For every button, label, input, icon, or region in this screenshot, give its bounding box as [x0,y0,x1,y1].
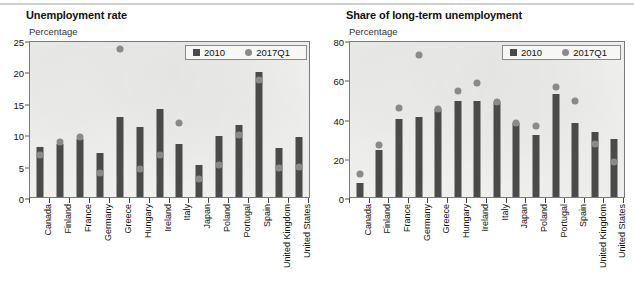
x-axis-label-united-kingdom: United Kingdom [282,204,292,268]
y-axis-tick-label: 80 [333,37,344,48]
y-axis-right: 020406080 [320,41,349,199]
x-axis-label-japan: Japan [519,204,529,229]
x-axis-label-spain: Spain [262,204,272,227]
dot-ireland [156,151,163,158]
x-axis-tick-mark [623,198,624,203]
bar-poland [532,135,539,197]
legend-item-2010-left: 2010 [193,47,225,58]
legend-label-2010-right: 2010 [521,47,542,58]
dot-poland [532,123,539,130]
y-axis-tick-label: 10 [13,131,24,142]
y-axis-tick-label: 15 [13,99,24,110]
x-axis-label-france: France [83,204,93,232]
x-axis-label-italy: Italy [500,204,510,221]
x-axis-tick-mark [188,198,189,203]
dot-germany [415,51,422,58]
dot-france [76,133,83,140]
bar-united-states [611,139,618,197]
plot-area-left [29,41,310,198]
dot-italy [176,119,183,126]
dot-united-states [611,158,618,165]
circle-marker-icon [245,49,252,56]
figure-container: Unemployment rate Percentage 0510152025 … [0,0,634,293]
x-axis-tick-mark [486,198,487,203]
dot-japan [513,120,520,127]
dot-greece [116,46,123,53]
y-axis-tick-label: 0 [339,194,344,205]
dot-united-kingdom [591,141,598,148]
y-axis-tick-label: 25 [13,37,24,48]
x-axis-label-finland: Finland [63,204,73,234]
dot-canada [356,171,363,178]
legend-label-2017q1-right: 2017Q1 [573,47,607,58]
dot-portugal [552,84,559,91]
x-axis-label-spain: Spain [578,204,588,227]
x-axis-label-hungary: Hungary [143,204,153,238]
x-axis-tick-mark [208,198,209,203]
dot-spain [256,77,263,84]
x-axis-tick-mark [564,198,565,203]
x-axis-label-united-states: United States [617,204,627,258]
x-axis-tick-mark [308,198,309,203]
x-axis-label-france: France [402,204,412,232]
legend-left: 2010 2017Q1 [185,45,307,60]
x-axis-label-germany: Germany [103,204,113,241]
x-axis-label-hungary: Hungary [461,204,471,238]
bar-spain [572,123,579,197]
bar-greece [116,117,123,197]
x-axis-tick-mark [29,198,30,203]
x-axis-tick-mark [349,198,350,203]
legend-item-2010-right: 2010 [510,47,542,58]
x-axis-label-poland: Poland [222,204,232,232]
x-axis-label-portugal: Portugal [559,204,569,238]
chart-panel-unemployment-rate: Unemployment rate Percentage 0510152025 … [0,0,320,293]
x-axis-tick-mark [388,198,389,203]
bar-finland [376,150,383,197]
x-axis-tick-mark [268,198,269,203]
dot-spain [572,97,579,104]
x-axis-tick-mark [369,198,370,203]
x-axis-label-greece: Greece [441,204,451,234]
dot-poland [216,161,223,168]
x-axis-tick-mark [89,198,90,203]
x-axis-label-united-states: United States [302,204,312,258]
dot-finland [376,142,383,149]
x-axis-tick-mark [169,198,170,203]
dot-portugal [236,131,243,138]
chart-title-right: Share of long-term unemployment [346,9,522,21]
x-axis-label-japan: Japan [202,204,212,229]
x-axis-tick-mark [149,198,150,203]
x-axis-label-italy: Italy [182,204,192,221]
bar-italy [493,102,500,197]
series-layer-left [30,42,309,197]
dot-japan [196,175,203,182]
dot-finland [56,138,63,145]
x-axis-tick-mark [447,198,448,203]
dot-greece [435,106,442,113]
bar-spain [256,72,263,197]
y-axis-unit-right: Percentage [349,26,398,37]
x-axis-label-ireland: Ireland [163,204,173,232]
dot-france [395,104,402,111]
bar-france [395,119,402,198]
x-axis-labels-left: CanadaFinlandFranceGermanyGreeceHungaryI… [29,204,310,290]
chart-title-left: Unemployment rate [26,9,127,21]
y-axis-tick-label: 5 [19,162,24,173]
legend-right: 2010 2017Q1 [502,45,621,60]
y-axis-tick-label: 40 [333,115,344,126]
bar-finland [56,144,63,197]
dot-hungary [454,88,461,95]
y-axis-tick-label: 20 [333,154,344,165]
bar-portugal [552,94,559,197]
x-axis-tick-mark [525,198,526,203]
bar-france [76,139,83,197]
bar-hungary [136,127,143,197]
y-axis-left: 0510152025 [0,41,29,199]
x-axis-tick-mark [584,198,585,203]
x-axis-tick-mark [427,198,428,203]
dot-united-states [296,164,303,171]
dot-canada [36,151,43,158]
x-axis-tick-mark [506,198,507,203]
x-axis-tick-mark [545,198,546,203]
x-axis-tick-mark [466,198,467,203]
